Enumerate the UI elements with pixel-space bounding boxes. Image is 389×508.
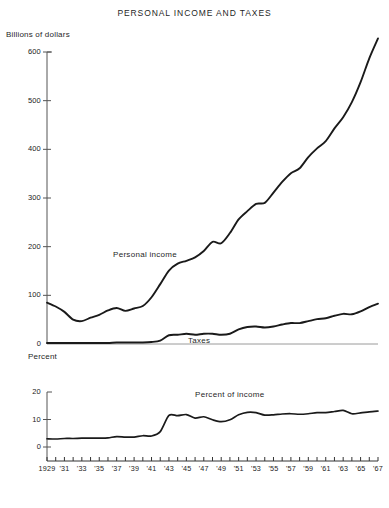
line-personal-income bbox=[47, 38, 378, 321]
plot-area bbox=[0, 0, 389, 508]
data-series-layer bbox=[47, 38, 378, 439]
chart-figure: PERSONAL INCOME AND TAXES Billions of do… bbox=[0, 0, 389, 508]
line-taxes bbox=[47, 304, 378, 343]
axes-lines bbox=[43, 52, 378, 461]
line-percent-of-income bbox=[47, 410, 378, 439]
